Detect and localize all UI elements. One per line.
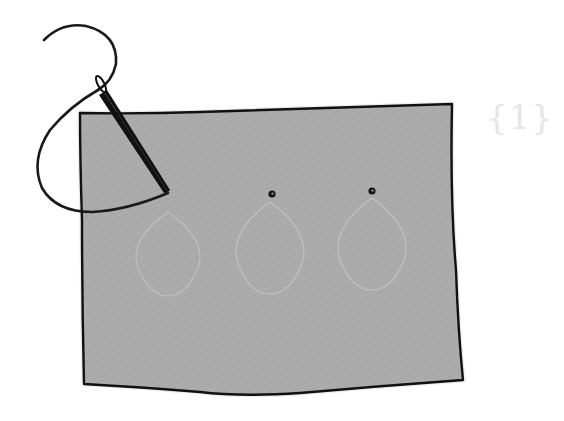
step-label: {1} — [486, 100, 554, 134]
knot-1-icon — [268, 190, 275, 197]
diagram-svg — [0, 0, 564, 421]
sewing-diagram: {1} — [0, 0, 564, 421]
knot-2-icon — [368, 187, 375, 194]
